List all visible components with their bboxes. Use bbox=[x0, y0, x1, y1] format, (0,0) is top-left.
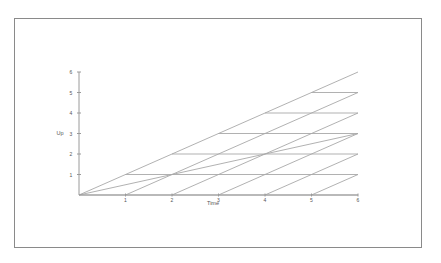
x-tick-label: 2 bbox=[171, 197, 174, 203]
series-line bbox=[219, 134, 359, 196]
y-tick-label: 3 bbox=[70, 131, 73, 137]
y-tick-label: 5 bbox=[70, 90, 73, 96]
x-tick-label: 6 bbox=[357, 197, 360, 203]
y-tick-label: 1 bbox=[70, 172, 73, 178]
y-tick-label: 4 bbox=[70, 110, 73, 116]
x-axis-label: Time bbox=[207, 200, 219, 206]
y-axis-label: Up bbox=[56, 130, 63, 136]
series-line bbox=[126, 93, 359, 196]
y-tick-label: 6 bbox=[70, 69, 73, 75]
series-line bbox=[312, 175, 359, 196]
line-chart: 123456 123456 Time Up bbox=[0, 0, 441, 263]
series-line bbox=[79, 134, 358, 196]
x-tick-label: 5 bbox=[310, 197, 313, 203]
x-tick-label: 1 bbox=[124, 197, 127, 203]
plot-lines bbox=[79, 72, 358, 195]
x-tick-label: 4 bbox=[264, 197, 267, 203]
y-tick-label: 2 bbox=[70, 151, 73, 157]
